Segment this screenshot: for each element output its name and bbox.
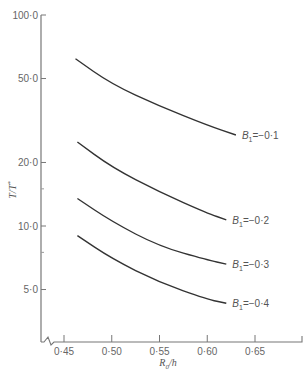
curve-b1-3 — [77, 199, 226, 265]
y-tick-label: 20·0 — [18, 157, 38, 168]
x-axis-break — [41, 336, 302, 345]
curve-label: B1=−0·2 — [232, 215, 269, 228]
curve-label: B1=−0·1 — [242, 130, 279, 143]
x-ticks: 0·450·500·550·600·65 — [54, 335, 265, 357]
x-tick-label: 0·65 — [245, 346, 265, 357]
x-tick-label: 0·45 — [54, 346, 74, 357]
curves — [76, 59, 236, 303]
x-axis-title: R0/h — [158, 357, 176, 371]
curve-b1-2 — [77, 142, 226, 220]
curve-label: B1=−0·4 — [232, 298, 269, 311]
y-tick-label: 10·0 — [18, 221, 38, 232]
y-tick-label: 5·0 — [24, 284, 39, 295]
chart-canvas: 100·050·020·010·05·0 0·450·500·550·600·6… — [0, 0, 306, 374]
x-tick-label: 0·55 — [149, 346, 169, 357]
curve-labels: B1=−0·1B1=−0·2B1=−0·3B1=−0·4 — [232, 130, 279, 311]
curve-b1-1 — [76, 59, 236, 135]
curve-label: B1=−0·3 — [232, 259, 269, 272]
axes — [41, 15, 302, 345]
curve-b1-4 — [77, 236, 226, 304]
y-axis-title: T/T* — [6, 181, 18, 199]
y-tick-label: 100·0 — [12, 10, 38, 21]
x-tick-label: 0·60 — [197, 346, 217, 357]
y-tick-label: 50·0 — [18, 73, 38, 84]
x-tick-label: 0·50 — [102, 346, 122, 357]
